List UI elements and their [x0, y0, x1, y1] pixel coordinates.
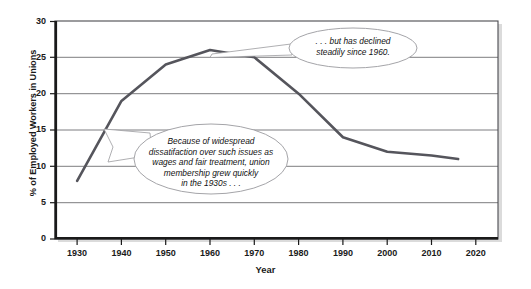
xtick-label-1940: 1940	[101, 249, 141, 258]
chart-figure: 30 25 20 15 10 5 0 1930 1940 1950 1960 1…	[0, 0, 531, 289]
xtick-label-1930: 1930	[57, 249, 97, 258]
ytick-label-0: 0	[20, 234, 46, 243]
union-decline-callout-bubble	[289, 28, 417, 68]
y-axis-ticks	[50, 22, 55, 240]
xtick-label-1980: 1980	[279, 249, 319, 258]
y-axis-title: % of Employed Workers in Unions	[28, 28, 38, 218]
xtick-label-2010: 2010	[412, 249, 452, 258]
xtick-label-2000: 2000	[367, 249, 407, 258]
xtick-label-1970: 1970	[234, 249, 274, 258]
ytick-label-30: 30	[20, 17, 46, 26]
line-chart-plot	[0, 0, 531, 289]
xtick-label-2020: 2020	[456, 249, 496, 258]
xtick-label-1960: 1960	[190, 249, 230, 258]
union-growth-callout-bubble	[134, 124, 288, 194]
xtick-label-1990: 1990	[323, 249, 363, 258]
x-axis-title: Year	[0, 264, 531, 275]
xtick-label-1950: 1950	[146, 249, 186, 258]
